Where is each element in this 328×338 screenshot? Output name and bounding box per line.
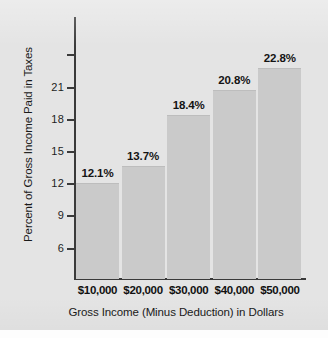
y-axis-tick-label-wrap: 9 xyxy=(30,210,64,221)
y-axis-tick-label: 12 xyxy=(36,178,64,189)
bar xyxy=(258,68,301,279)
y-axis-tick-label-wrap: 18 xyxy=(30,114,64,125)
y-axis-tick xyxy=(67,151,75,153)
bar-chart-figure: 6912151821 12.1%13.7%18.4%20.8%22.8% $10… xyxy=(0,0,328,330)
y-axis-title: Percent of Gross Income Paid in Taxes xyxy=(22,20,35,270)
y-axis-tick-label: 21 xyxy=(36,82,64,93)
bar-value-label: 12.1% xyxy=(68,167,127,179)
y-axis-tick xyxy=(67,215,75,217)
y-axis-tick xyxy=(67,87,75,89)
y-axis-tick-label-wrap: 6 xyxy=(30,243,64,254)
bar-value-label: 20.8% xyxy=(205,74,264,86)
page-margin-strip xyxy=(0,330,328,338)
bar xyxy=(122,166,165,279)
y-axis-tick-label: 18 xyxy=(36,114,64,125)
y-axis-tick xyxy=(67,54,75,56)
x-axis-category-label: $50,000 xyxy=(251,284,308,297)
x-axis-title: Gross Income (Minus Deduction) in Dollar… xyxy=(40,306,312,319)
bar xyxy=(76,183,119,279)
y-axis-tick-label-wrap: 12 xyxy=(30,178,64,189)
plot-area: 6912151821 12.1%13.7%18.4%20.8%22.8% $10… xyxy=(0,0,328,330)
y-axis-tick-label-wrap: 21 xyxy=(30,82,64,93)
bar-value-label: 22.8% xyxy=(250,52,309,64)
bar-value-label: 13.7% xyxy=(114,150,173,162)
y-axis-tick-label: 15 xyxy=(36,146,64,157)
y-axis-tick-label-wrap: 15 xyxy=(30,146,64,157)
y-axis-tick xyxy=(67,248,75,250)
y-axis-tick-label: 9 xyxy=(36,210,64,221)
bar xyxy=(213,90,256,279)
bar xyxy=(167,115,210,279)
y-axis-tick xyxy=(67,183,75,185)
y-axis-tick xyxy=(67,119,75,121)
y-axis-tick-label: 6 xyxy=(36,243,64,254)
bar-value-label: 18.4% xyxy=(159,99,218,111)
